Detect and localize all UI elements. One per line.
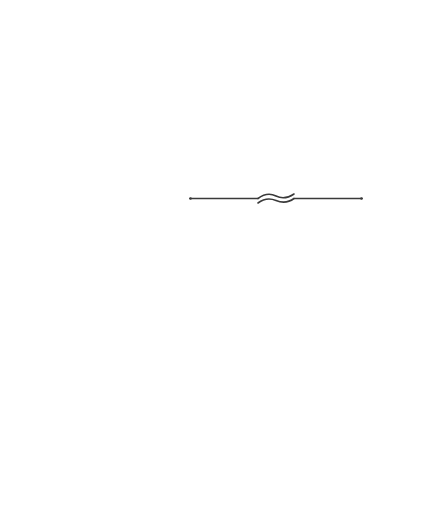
divider-wave-icon: [188, 188, 364, 210]
document-page: [0, 0, 428, 506]
section-divider-ornament: [188, 188, 364, 210]
